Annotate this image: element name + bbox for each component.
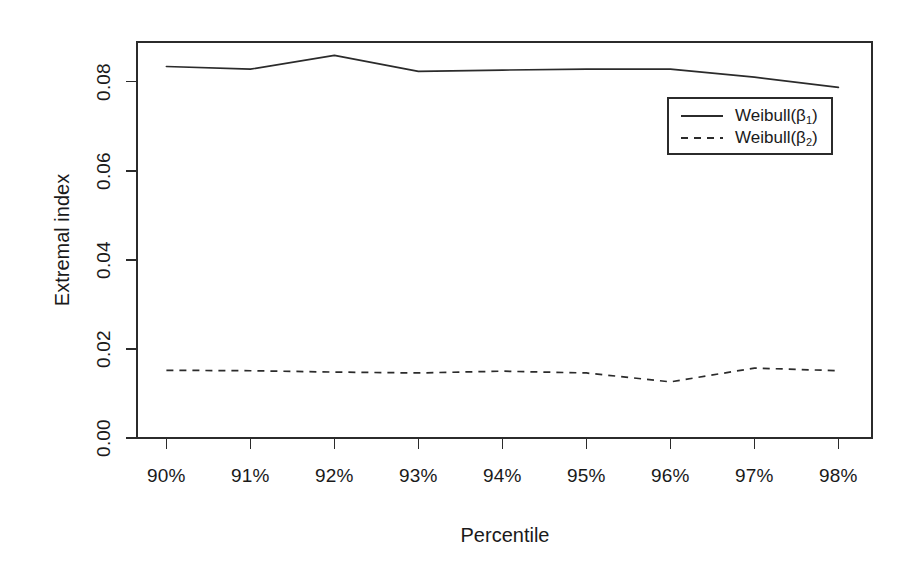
x-tick-label: 92% bbox=[315, 465, 354, 487]
x-axis-title: Percentile bbox=[461, 524, 550, 547]
series-line-weibull-b1 bbox=[166, 55, 838, 87]
chart-figure: 0.000.020.040.060.08 90%91%92%93%94%95%9… bbox=[0, 0, 920, 577]
y-tick-label: 0.04 bbox=[93, 241, 115, 279]
x-tick-label: 98% bbox=[819, 465, 858, 487]
series-line-weibull-b2 bbox=[166, 368, 838, 382]
x-tick-label: 93% bbox=[399, 465, 438, 487]
x-tick-label: 94% bbox=[483, 465, 522, 487]
y-tick-label: 0.02 bbox=[93, 330, 115, 368]
x-tick-label: 97% bbox=[735, 465, 774, 487]
legend-label-weibull-b1: Weibull(β1) bbox=[735, 106, 818, 126]
y-tick-label: 0.00 bbox=[93, 419, 115, 457]
x-tick-label: 90% bbox=[147, 465, 186, 487]
y-axis-title: Extremal index bbox=[51, 174, 74, 306]
legend-label-weibull-b2: Weibull(β2) bbox=[735, 128, 818, 148]
y-tick-label: 0.08 bbox=[93, 63, 115, 101]
x-tick-label: 91% bbox=[231, 465, 270, 487]
x-tick-label: 96% bbox=[651, 465, 690, 487]
x-axis-ticks bbox=[166, 438, 838, 449]
y-axis-ticks bbox=[126, 82, 137, 438]
y-tick-label: 0.06 bbox=[93, 152, 115, 190]
x-tick-label: 95% bbox=[567, 465, 606, 487]
plot-canvas bbox=[0, 0, 920, 577]
